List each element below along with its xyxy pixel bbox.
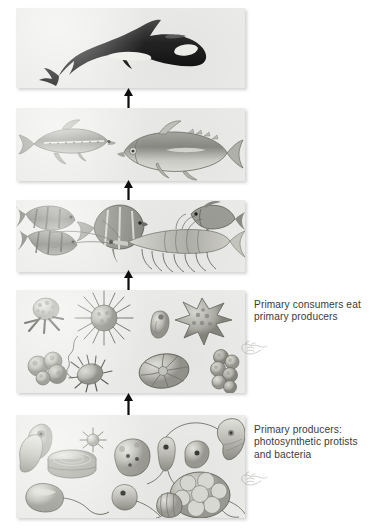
- trophic-panel-small-fish-krill[interactable]: [16, 200, 245, 272]
- trophic-panel-primary-producers[interactable]: [16, 415, 245, 518]
- trophic-panel-primary-consumers[interactable]: [16, 290, 245, 393]
- phytoplankton-illustration: [16, 415, 245, 518]
- trophic-panel-large-fish[interactable]: [16, 108, 245, 181]
- large-fish-illustration: [16, 108, 245, 181]
- energy-flow-arrow-4: [122, 88, 135, 108]
- energy-flow-arrow-2: [122, 270, 135, 290]
- trophic-panel-top-predator[interactable]: [16, 8, 245, 88]
- zooplankton-illustration: [16, 290, 245, 393]
- food-chain-figure: Primary consumers eat primary producers: [0, 0, 379, 531]
- orca-illustration: [16, 8, 245, 88]
- pointing-hand-icon-2: [238, 468, 268, 488]
- caption-primary-producers: Primary producers: photosynthetic protis…: [254, 424, 378, 461]
- energy-flow-arrow-3: [122, 180, 135, 200]
- pointing-hand-icon-1: [238, 337, 268, 357]
- energy-flow-arrow-1: [122, 393, 135, 415]
- caption-primary-consumers: Primary consumers eat primary producers: [254, 299, 376, 324]
- small-fish-and-krill-illustration: [16, 200, 245, 272]
